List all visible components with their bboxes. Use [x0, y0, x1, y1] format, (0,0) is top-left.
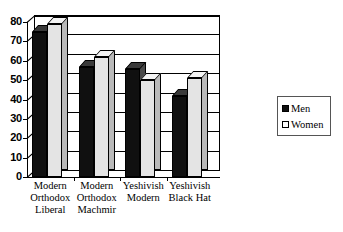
- y-axis-tick-label: 50: [2, 74, 22, 85]
- x-axis-line: [27, 177, 220, 178]
- x-axis-category-line: Black Hat: [158, 192, 222, 204]
- bar-women: [187, 78, 202, 177]
- legend-label-men: Men: [291, 103, 310, 114]
- y-axis-tick-label: 10: [2, 152, 22, 163]
- x-axis-category-label: YeshivishBlack Hat: [158, 180, 222, 204]
- legend-item-men: Men: [282, 103, 310, 114]
- y-axis-tick-label: 30: [2, 113, 22, 124]
- gridline: [34, 15, 220, 16]
- x-axis-category-line: Yeshivish: [158, 180, 222, 192]
- bar-side-face: [154, 73, 161, 170]
- bar-men: [32, 32, 47, 177]
- bar-men: [125, 69, 140, 178]
- legend-swatch-women-icon: [282, 121, 289, 128]
- y-axis-tick-label: 70: [2, 35, 22, 46]
- legend: Men Women: [277, 96, 331, 136]
- bar-women: [47, 24, 62, 177]
- y-axis-tick-label: 80: [2, 16, 22, 27]
- x-axis-labels: ModernOrthodoxLiberalModernOrthodoxMachm…: [27, 180, 227, 230]
- bar-women: [140, 80, 155, 177]
- legend-swatch-men-icon: [282, 105, 289, 112]
- bar-chart: 80706050403020100 ModernOrthodoxLiberalM…: [0, 0, 343, 232]
- y-axis-tick-label: 40: [2, 94, 22, 105]
- plot-area: [27, 16, 220, 178]
- bar-men: [79, 67, 94, 177]
- bar-women: [94, 57, 109, 177]
- bar-men: [172, 96, 187, 177]
- y-axis-tick-label: 60: [2, 55, 22, 66]
- bar-side-face: [108, 50, 115, 170]
- y-axis-tick-label: 20: [2, 132, 22, 143]
- bar-side-face: [201, 71, 208, 170]
- legend-label-women: Women: [291, 119, 323, 130]
- bar-side-face: [61, 17, 68, 170]
- legend-item-women: Women: [282, 119, 323, 130]
- x-axis-category-line: Machmir: [65, 204, 129, 216]
